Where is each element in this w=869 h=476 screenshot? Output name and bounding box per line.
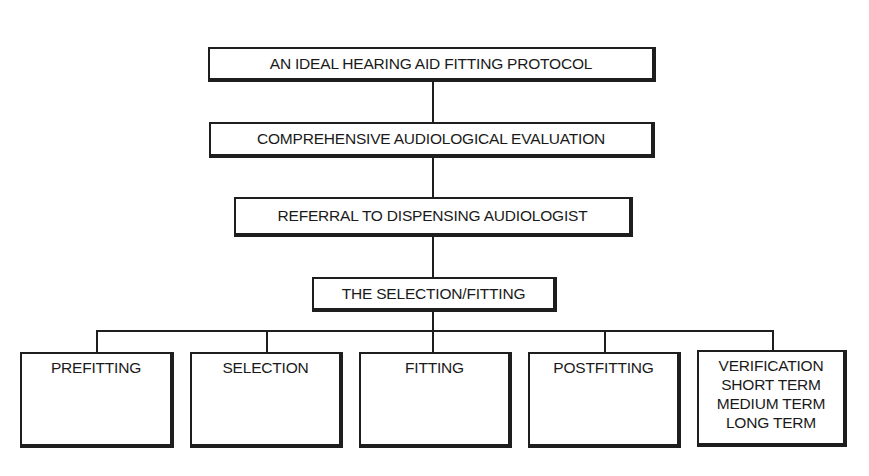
connector-horizontal-bus xyxy=(96,330,774,332)
node-referral: REFERRAL TO DISPENSING AUDIOLOGIST xyxy=(234,197,633,237)
connector-to-prefitting xyxy=(96,330,98,353)
verification-short-term: SHORT TERM xyxy=(699,375,843,394)
node-root-label: AN IDEAL HEARING AID FITTING PROTOCOL xyxy=(270,55,592,73)
node-root-protocol: AN IDEAL HEARING AID FITTING PROTOCOL xyxy=(208,47,656,82)
verification-long-term: LONG TERM xyxy=(699,413,843,432)
connector-to-postfitting xyxy=(604,330,606,353)
connector-to-selection xyxy=(266,330,268,353)
leaf-verification-label: VERIFICATION xyxy=(699,356,843,375)
leaf-prefitting: PREFITTING xyxy=(20,352,174,448)
leaf-postfitting-label: POSTFITTING xyxy=(530,359,677,377)
leaf-verification: VERIFICATION SHORT TERM MEDIUM TERM LONG… xyxy=(697,350,847,447)
leaf-fitting: FITTING xyxy=(359,352,512,448)
leaf-postfitting: POSTFITTING xyxy=(528,352,681,448)
node-selection-fitting-label: THE SELECTION/FITTING xyxy=(342,285,526,303)
connector-root-evaluation xyxy=(432,81,434,123)
node-selection-fitting: THE SELECTION/FITTING xyxy=(312,277,557,312)
connector-evaluation-referral xyxy=(432,157,434,198)
leaf-selection-label: SELECTION xyxy=(192,359,339,377)
verification-medium-term: MEDIUM TERM xyxy=(699,394,843,413)
node-referral-label: REFERRAL TO DISPENSING AUDIOLOGIST xyxy=(278,207,588,225)
leaf-selection: SELECTION xyxy=(190,352,343,448)
connector-referral-selection-fitting xyxy=(432,236,434,278)
connector-selection-fitting-trunk xyxy=(432,311,434,353)
node-audiological-evaluation: COMPREHENSIVE AUDIOLOGICAL EVALUATION xyxy=(209,122,655,158)
leaf-fitting-label: FITTING xyxy=(361,359,508,377)
leaf-prefitting-label: PREFITTING xyxy=(22,359,170,377)
node-evaluation-label: COMPREHENSIVE AUDIOLOGICAL EVALUATION xyxy=(257,130,605,148)
